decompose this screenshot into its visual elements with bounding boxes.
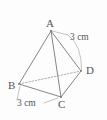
vertex-dot-D [80, 70, 82, 72]
vertex-label-D: D [86, 65, 94, 76]
vertex-dot-B [18, 83, 20, 85]
measurement-label-bc: 3 cm [17, 98, 36, 108]
measurement-label-ad: 3 cm [70, 32, 89, 42]
vertex-dot-A [50, 30, 52, 32]
leader-line-bc-right [44, 98, 58, 103]
tetrahedron-figure: A B C D 3 cm 3 cm [0, 0, 107, 120]
vertex-label-A: A [46, 18, 54, 29]
leader-arc-ad [52, 31, 68, 35]
edge-AB [19, 31, 51, 84]
vertex-label-C: C [58, 99, 65, 110]
vertex-label-B: B [8, 80, 15, 91]
edge-CD [61, 71, 81, 97]
edge-BD-hidden [19, 71, 81, 84]
edge-AC [51, 31, 61, 97]
edge-BC [19, 84, 61, 97]
